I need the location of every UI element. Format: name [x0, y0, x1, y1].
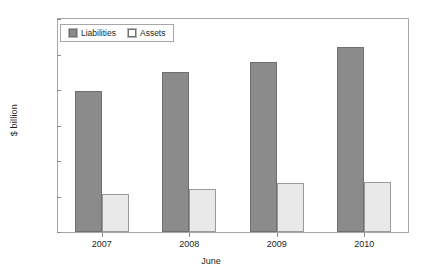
y-tick-mark	[57, 232, 61, 233]
x-tick-label: 2008	[159, 240, 219, 249]
x-tick-label: 2007	[72, 240, 132, 249]
x-tick-mark	[277, 233, 278, 237]
bar-chart-figure: $ billion 0100200300400500600 2007200820…	[0, 0, 422, 278]
x-tick-mark	[102, 233, 103, 237]
y-axis-title: $ billion	[2, 0, 26, 240]
legend-entry-assets[interactable]: Assets	[128, 29, 166, 38]
x-axis-title: June	[0, 256, 422, 266]
legend-label: Liabilities	[81, 29, 116, 38]
chart-legend: LiabilitiesAssets	[60, 24, 174, 42]
bar-assets-2008	[189, 189, 216, 232]
y-axis-title-label: $ billion	[9, 104, 19, 136]
x-tick-mark	[189, 233, 190, 237]
bar-liabilities-2007	[75, 91, 102, 232]
bars-layer	[58, 19, 408, 232]
x-tick-mark	[364, 233, 365, 237]
bar-assets-2010	[364, 182, 391, 232]
legend-swatch-icon	[69, 29, 77, 37]
bar-liabilities-2010	[337, 47, 364, 232]
x-tick-label: 2009	[247, 240, 307, 249]
x-tick-label: 2010	[334, 240, 394, 249]
bar-liabilities-2008	[162, 72, 189, 232]
legend-entry-liabilities[interactable]: Liabilities	[69, 29, 116, 38]
bar-liabilities-2009	[250, 62, 277, 232]
bar-assets-2009	[277, 183, 304, 232]
bar-assets-2007	[102, 194, 129, 232]
legend-swatch-icon	[128, 29, 136, 37]
legend-label: Assets	[140, 29, 166, 38]
